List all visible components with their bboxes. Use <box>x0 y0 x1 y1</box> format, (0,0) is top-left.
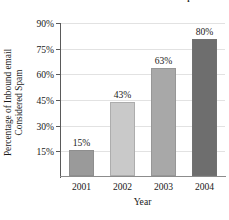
bar[interactable] <box>151 68 176 176</box>
bar-value-label: 43% <box>114 89 132 100</box>
bar-value-label: 15% <box>73 137 91 148</box>
y-axis-tick-label: 75% <box>36 43 54 54</box>
tick-mark <box>56 100 60 101</box>
y-axis-tick-label: 45% <box>36 95 54 106</box>
y-axis-tick-label: 60% <box>36 69 54 80</box>
bar-chart: Share of All Email Considered Spam Perce… <box>0 0 229 220</box>
bar-value-label: 63% <box>155 55 173 66</box>
x-axis-tick-label: 2004 <box>195 181 214 192</box>
y-axis-title-line1: Percentage of Inbound email <box>3 49 13 156</box>
bar-slot: 15% <box>69 22 94 176</box>
x-axis-tick-label: 2002 <box>113 181 132 192</box>
bar-series: 15%43%63%80% <box>61 22 225 176</box>
y-axis-title-line2: Considered Spam <box>13 18 24 188</box>
x-axis-line <box>60 176 226 177</box>
tick-mark <box>56 151 60 152</box>
bar-value-label: 80% <box>196 26 214 37</box>
x-axis-tick-label: 2001 <box>72 181 91 192</box>
plot-area: 90%75%60%45%30%15% 15%43%63%80% <box>60 23 225 177</box>
tick-mark <box>56 23 60 24</box>
tick-mark <box>56 49 60 50</box>
bar[interactable] <box>192 39 217 176</box>
y-axis-tick-label: 90% <box>36 18 54 29</box>
y-axis-tick-label: 30% <box>36 120 54 131</box>
bar-slot: 63% <box>151 22 176 176</box>
bar[interactable] <box>69 150 94 176</box>
tick-mark <box>56 126 60 127</box>
chart-title: Share of All Email Considered Spam <box>46 0 229 2</box>
x-axis-title: Year <box>60 196 225 207</box>
x-axis-tick-label: 2003 <box>154 181 173 192</box>
tick-mark <box>56 74 60 75</box>
y-axis-title: Percentage of Inbound email Considered S… <box>3 18 24 188</box>
bar[interactable] <box>110 102 135 176</box>
bar-slot: 43% <box>110 22 135 176</box>
bar-slot: 80% <box>192 22 217 176</box>
y-axis-tick-label: 15% <box>36 146 54 157</box>
